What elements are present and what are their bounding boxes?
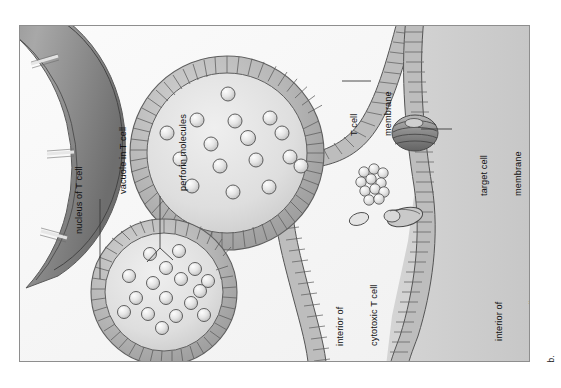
label-vacuole-in-t-cell: vacuole in T cell <box>96 127 152 194</box>
label-target-cell-membrane: target cell membrane <box>457 151 530 196</box>
label-vacuole-text: vacuole in T cell <box>118 127 129 194</box>
label-nucleus-text: nucleus of T cell <box>74 166 85 234</box>
label-t-cell-membrane-line2: membrane <box>383 91 394 136</box>
figure-canvas: nucleus of T cell vacuole in T cell perf… <box>0 0 561 388</box>
label-perforin-molecules: perforin molecules <box>156 114 212 191</box>
label-interior-of-cytotoxic-t-cell: interior of cytotoxic T cell <box>313 284 403 346</box>
label-interior-t-cell-line2: cytotoxic T cell <box>369 284 380 346</box>
label-t-cell-membrane-line1: T cell <box>349 91 360 136</box>
label-interior-target-cell-line2: target cell <box>528 300 530 341</box>
label-target-cell-membrane-line1: target cell <box>479 151 490 196</box>
label-perforin-text: perforin molecules <box>178 114 189 191</box>
vacuole-small <box>91 219 237 361</box>
label-interior-target-cell-line1: interior of <box>494 300 505 341</box>
panel-letter-b: b. <box>536 355 561 372</box>
label-interior-t-cell-line1: interior of <box>335 284 346 346</box>
panel-letter-text: b. <box>546 355 556 362</box>
label-interior-of-target-cell: interior of target cell <box>472 300 530 341</box>
diagram-frame: nucleus of T cell vacuole in T cell perf… <box>19 25 530 362</box>
label-target-cell-membrane-line2: membrane <box>513 151 524 196</box>
label-t-cell-membrane: T cell membrane <box>327 91 417 136</box>
